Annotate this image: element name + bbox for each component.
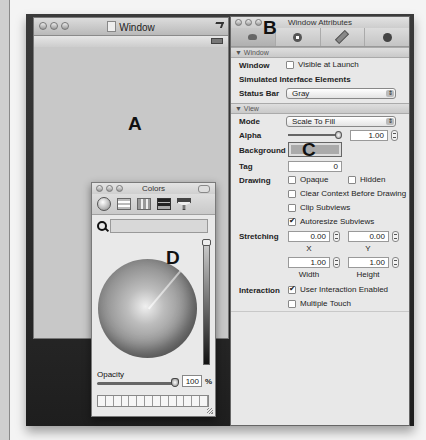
hidden-checkbox[interactable] <box>348 176 356 184</box>
window-title-text: Window <box>119 22 155 33</box>
clear-context-checkbox[interactable] <box>288 190 296 198</box>
stretch-height-field[interactable]: 1.00 <box>348 257 389 268</box>
opaque-label: Opaque <box>300 175 328 184</box>
swatch[interactable] <box>184 396 192 406</box>
section-window-header[interactable]: ▼ Window <box>231 47 409 58</box>
annotation-a: A <box>128 113 142 135</box>
inspector-titlebar[interactable]: Window Attributes <box>231 17 409 28</box>
colors-titlebar[interactable]: Colors <box>92 183 215 194</box>
tag-row: Tag 0 <box>231 159 409 173</box>
opacity-value-field[interactable]: 100 <box>182 375 202 387</box>
opacity-slider-knob[interactable] <box>171 378 179 387</box>
inspector-panel[interactable]: Window Attributes ▼ Window Window Visibl… <box>230 16 410 426</box>
user-interaction-label: User Interaction Enabled <box>300 285 388 294</box>
colors-title: Colors <box>92 184 215 193</box>
swatch[interactable] <box>161 396 169 406</box>
info-icon <box>383 33 392 42</box>
swatch[interactable] <box>200 396 208 406</box>
autoresize-label: Autoresize Subviews <box>300 217 374 226</box>
swatch[interactable] <box>192 396 200 406</box>
inspector-tabs <box>231 28 409 47</box>
autoresize-checkbox[interactable] <box>288 218 296 226</box>
stretch-width-stepper[interactable] <box>333 257 340 268</box>
updown-arrows-icon: ⇕ <box>386 90 394 97</box>
resize-grip[interactable] <box>207 408 213 414</box>
tab-size[interactable] <box>321 28 366 46</box>
multiple-touch-label: Multiple Touch <box>300 299 351 308</box>
stretch-x-stepper[interactable] <box>333 231 340 242</box>
tab-connections[interactable] <box>276 28 321 46</box>
stretch-x-field[interactable]: 0.00 <box>288 231 330 242</box>
swatch[interactable] <box>153 396 161 406</box>
swatch[interactable] <box>129 396 137 406</box>
toolbar-toggle-button[interactable] <box>198 185 210 193</box>
background-row: Background C <box>231 142 409 159</box>
alpha-stepper[interactable] <box>391 130 398 141</box>
image-palettes-icon[interactable] <box>157 198 171 210</box>
swatch[interactable] <box>114 396 122 406</box>
visible-at-launch-checkbox[interactable] <box>286 61 294 69</box>
swatch[interactable] <box>169 396 177 406</box>
swatch[interactable] <box>145 396 153 406</box>
stretch-width-field[interactable]: 1.00 <box>288 257 330 268</box>
drawing-label: Drawing <box>239 176 271 185</box>
color-search-row <box>92 218 215 236</box>
opacity-slider[interactable] <box>97 382 177 385</box>
opaque-checkbox[interactable] <box>288 176 296 184</box>
autoresize-row: Autoresize Subviews <box>231 215 409 229</box>
hidden-label: Hidden <box>360 175 385 184</box>
clip-subviews-row: Clip Subviews <box>231 201 409 215</box>
annotation-d: D <box>166 247 180 269</box>
swatch[interactable] <box>106 396 114 406</box>
section-view-header[interactable]: ▼ View <box>231 103 409 114</box>
color-sliders-icon[interactable] <box>117 198 131 210</box>
alpha-row: Alpha 1.00 <box>231 128 409 142</box>
drawing-row: Drawing Opaque Hidden <box>231 173 409 187</box>
page-margin <box>0 0 10 440</box>
mode-value: Scale To Fill <box>292 117 335 126</box>
connections-icon <box>293 33 302 42</box>
tag-field[interactable]: 0 <box>288 161 342 172</box>
y-label: Y <box>343 244 393 253</box>
stretch-height-stepper[interactable] <box>392 257 399 268</box>
multiple-touch-checkbox[interactable] <box>288 300 296 308</box>
brightness-slider[interactable] <box>203 241 210 365</box>
swatch[interactable] <box>98 396 106 406</box>
color-wheel-icon[interactable] <box>97 197 111 211</box>
status-bar-select[interactable]: Gray⇕ <box>286 88 396 99</box>
alpha-label: Alpha <box>239 131 261 140</box>
interaction-row: Interaction User Interaction Enabled <box>231 283 409 297</box>
window-titlebar[interactable]: Window <box>34 18 228 36</box>
color-mode-toolbar <box>92 194 215 215</box>
alpha-slider-knob[interactable] <box>335 131 342 139</box>
colors-panel[interactable]: Colors Opacity 100 % <box>91 182 216 417</box>
clip-subviews-checkbox[interactable] <box>288 204 296 212</box>
user-interaction-checkbox[interactable] <box>288 286 296 294</box>
stretching-label: Stretching <box>239 232 279 241</box>
status-bar-row: Status Bar Gray⇕ <box>231 86 409 100</box>
color-palettes-icon[interactable] <box>137 198 151 210</box>
search-icon <box>97 221 107 231</box>
simulated-elements-label: Simulated Interface Elements <box>239 75 351 84</box>
window-label: Window <box>239 61 270 70</box>
mode-row: Mode Scale To Fill⇕ <box>231 114 409 128</box>
crayons-icon[interactable] <box>177 198 191 210</box>
tab-identity[interactable] <box>365 28 409 46</box>
battery-icon <box>211 38 223 44</box>
swatch[interactable] <box>137 396 145 406</box>
color-search-input[interactable] <box>110 219 208 233</box>
brightness-slider-knob[interactable] <box>202 239 211 246</box>
mode-select[interactable]: Scale To Fill⇕ <box>286 116 396 127</box>
swatch[interactable] <box>177 396 185 406</box>
height-label: Height <box>343 270 393 279</box>
clear-context-label: Clear Context Before Drawing <box>300 189 406 198</box>
stretch-y-field[interactable]: 0.00 <box>348 231 389 242</box>
alpha-slider[interactable] <box>288 134 338 136</box>
status-bar-label: Status Bar <box>239 89 279 98</box>
stretch-y-stepper[interactable] <box>392 231 399 242</box>
background-label: Background <box>239 146 286 155</box>
alpha-field[interactable]: 1.00 <box>350 130 388 141</box>
swatch[interactable] <box>122 396 130 406</box>
simulated-row: Simulated Interface Elements <box>231 72 409 86</box>
color-wheel[interactable] <box>98 259 197 358</box>
